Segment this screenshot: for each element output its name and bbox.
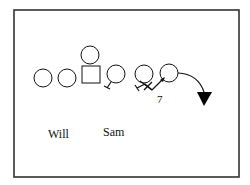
- player-number: 7: [157, 93, 163, 105]
- label-sam: Sam: [103, 125, 125, 139]
- label-will: Will: [48, 127, 70, 141]
- play-diagram: 7 Will Sam: [0, 0, 250, 185]
